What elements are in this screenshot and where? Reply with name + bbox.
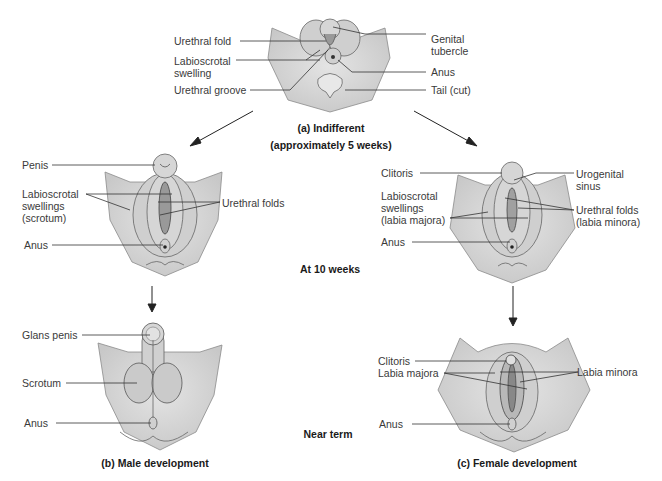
label-urethral-folds-labia-minora: Urethral folds (labia minora) [576,204,640,228]
label-urethral-groove: Urethral groove [174,84,246,96]
label-anus-female-10wk: Anus [381,236,405,248]
label-anus-a: Anus [431,66,455,78]
label-genital-tubercle: Genital tubercle [431,33,468,57]
male-10-weeks-illustration [105,154,222,276]
label-labioscrotal-swellings-scrotum: Labioscrotal swellings (scrotum) [22,188,79,224]
diagram-artwork [0,0,662,481]
stage-at-10-weeks: At 10 weeks [285,263,375,275]
stage-near-term: Near term [288,428,368,440]
caption-indifferent: (a) Indifferent [271,122,391,134]
label-anus-male-term: Anus [24,417,48,429]
label-urogenital-sinus: Urogenital sinus [576,168,624,192]
label-glans-penis: Glans penis [22,329,77,341]
label-penis: Penis [22,159,48,171]
label-anus-male-10wk: Anus [24,239,48,251]
label-clitoris-10wk: Clitoris [381,167,413,179]
label-tail-cut: Tail (cut) [431,84,471,96]
male-term-illustration [98,323,222,450]
label-clitoris-term: Clitoris [378,355,410,367]
label-urethral-folds-male: Urethral folds [222,197,284,209]
female-term-illustration [438,338,590,452]
label-urethral-fold: Urethral fold [174,35,231,47]
indifferent-illustration [268,19,390,112]
caption-approx-5-weeks: (approximately 5 weeks) [251,139,411,151]
label-labia-minora: Labia minora [577,366,638,378]
caption-male-development: (b) Male development [80,457,230,469]
label-anus-female-term: Anus [379,418,403,430]
down-arrows [148,286,517,326]
caption-female-development: (c) Female development [437,457,597,469]
label-labioscrotal-swellings-labia-majora: Labioscrotal swellings (labia majora) [381,190,445,226]
label-labia-majora: Labia majora [378,367,439,379]
label-scrotum: Scrotum [22,377,61,389]
female-10-weeks-illustration [450,162,575,283]
label-labioscrotal-swelling: Labioscrotal swelling [174,55,231,79]
